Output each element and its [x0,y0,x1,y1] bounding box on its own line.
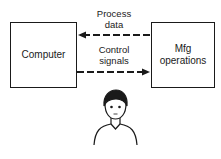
human-operator-icon [94,90,137,145]
control-signals-arrow [77,69,150,76]
diagram-graphics [0,0,221,159]
process-data-arrow [78,32,150,39]
